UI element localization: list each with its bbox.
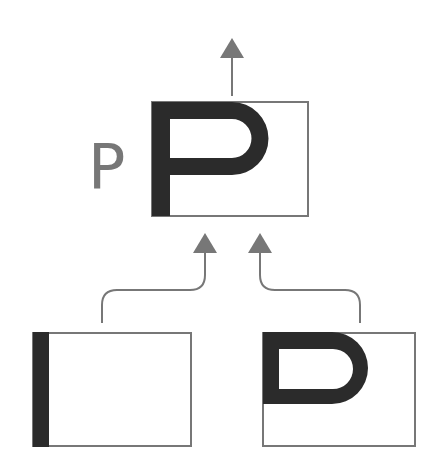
bowl-box <box>263 332 415 446</box>
output-arrow <box>220 38 244 96</box>
composition-diagram <box>0 0 441 475</box>
stem-glyph <box>33 332 49 447</box>
result-label: P <box>88 136 125 198</box>
bowl-connector <box>248 233 360 323</box>
stem-box <box>33 332 191 447</box>
result-box <box>152 102 308 216</box>
stem-connector <box>102 233 217 323</box>
